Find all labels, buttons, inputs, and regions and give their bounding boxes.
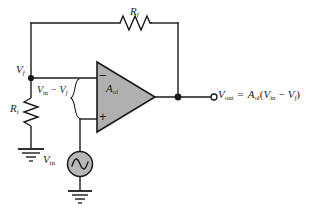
source-label: Vin: [43, 154, 55, 167]
feedback-resistor-label-sub: f: [137, 11, 139, 18]
input-resistor: [24, 78, 38, 148]
circuit-schematic: [0, 0, 330, 211]
figure-canvas: Rf Vf Ri Vin−Vf Aol − + Vin Vout=Aol(Vin…: [0, 0, 330, 211]
open-terminal-vout: [211, 94, 217, 100]
junction-dot-vout: [175, 94, 182, 101]
source-label-sub: in: [50, 159, 55, 166]
input-resistor-label-sub: i: [17, 108, 19, 115]
feedback-resistor-label-text: R: [130, 5, 137, 17]
output-equation-label: Vout=Aol(Vin−Vf): [218, 89, 300, 102]
ac-voltage-source: [68, 152, 93, 177]
ground-symbol-ri: [18, 149, 44, 161]
diff-trail-sub: f: [66, 89, 68, 96]
ground-symbol-source: [68, 191, 92, 203]
out-name-text: V: [218, 88, 225, 100]
source-label-text: V: [43, 153, 50, 165]
noninverting-input-sign: +: [99, 110, 107, 123]
feedback-node-label-sub: f: [23, 69, 25, 76]
input-resistor-label-text: R: [10, 102, 17, 114]
feedback-node-label-text: V: [16, 63, 23, 75]
feedback-node-label: Vf: [16, 64, 25, 77]
feedback-resistor-label: Rf: [130, 6, 139, 19]
differential-voltage-label: Vin−Vf: [37, 85, 67, 96]
input-resistor-label: Ri: [10, 103, 19, 116]
opamp-gain-label: Aol: [106, 83, 118, 96]
out-close-paren: ): [296, 88, 300, 100]
diff-minus-sign: −: [48, 84, 60, 95]
out-equals-sign: =: [233, 88, 247, 100]
opamp-gain-label-text: A: [106, 82, 113, 94]
opamp-gain-label-sub: ol: [113, 88, 118, 95]
noninverting-input-wire: [80, 119, 97, 152]
out-minus-sign: −: [275, 88, 287, 100]
differential-input-brace: [71, 79, 79, 118]
inverting-input-sign: −: [99, 69, 107, 82]
